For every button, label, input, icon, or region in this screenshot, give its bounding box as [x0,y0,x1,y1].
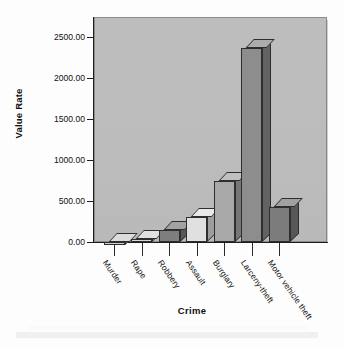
chart-figure: Value Rate 0.00500.001000.001500.002000.… [0,0,344,346]
bar-murder [104,233,125,245]
x-axis-line [93,242,328,243]
x-tick-mark [169,243,170,256]
x-tick-mark [252,243,253,256]
y-tick-label: 2500.00 [27,32,85,42]
bar-burglary [214,172,235,242]
x-tick-label-murder: Murder [101,258,125,286]
x-tick-label-burglary: Burglary [211,258,238,290]
bar-front-face [131,239,152,242]
y-tick-mark [87,37,94,38]
y-tick-label: 1000.00 [27,155,85,165]
x-tick-mark [279,243,280,256]
x-axis-title: Crime [0,305,344,316]
y-tick-label: 2000.00 [27,73,85,83]
x-tick-label-assault: Assault [183,258,207,287]
bar-rape [131,230,152,242]
y-tick-mark [87,119,94,120]
bar-front-face [269,207,290,242]
y-tick-mark [87,160,94,161]
bar-front-face [186,217,207,242]
bar-assault [186,208,207,242]
x-tick-mark [224,243,225,256]
y-tick-label: 0.00 [27,237,85,247]
bar-front-face [159,230,180,242]
bar-robbery [159,221,180,242]
x-tick-mark [114,243,115,256]
bar-front-face [214,181,235,242]
y-tick-mark [87,78,94,79]
y-tick-mark [87,242,94,243]
y-axis-title: Value Rate [13,74,24,154]
y-tick-label: 1500.00 [27,114,85,124]
bar-larceny-theft [241,39,262,242]
x-tick-label-robbery: Robbery [156,258,183,290]
y-tick-mark [87,201,94,202]
bar-front-face [241,48,262,242]
x-tick-mark [142,243,143,256]
scan-artifact-lower [16,332,318,338]
scan-artifact-upper [28,326,308,330]
y-axis-line [93,17,94,243]
x-tick-label-rape: Rape [128,258,148,280]
y-tick-label: 500.00 [27,196,85,206]
bar-front-face [104,242,125,245]
x-tick-mark [197,243,198,256]
bar-motor-vehicle-theft [269,198,290,242]
